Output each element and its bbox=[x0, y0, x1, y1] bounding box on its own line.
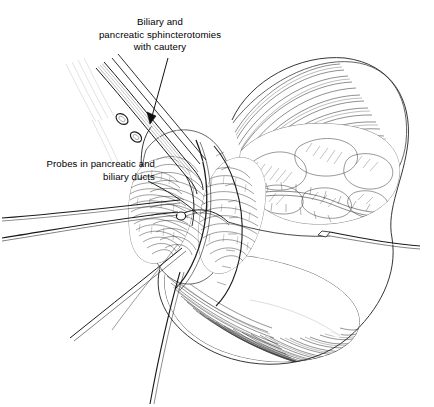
label-probes-line-2: biliary ducts bbox=[15, 171, 155, 184]
label-cautery-line-2: pancreatic sphincterotomies bbox=[85, 29, 235, 42]
label-cautery-line-3: with cautery bbox=[85, 41, 235, 54]
label-probes-line-1: Probes in pancreatic and bbox=[15, 158, 155, 171]
label-probes-in-pancreatic-and-biliary-ducts: Probes in pancreatic and biliary ducts bbox=[15, 158, 155, 183]
label-biliary-pancreatic-sphincterotomies: Biliary and pancreatic sphincterotomies … bbox=[85, 16, 235, 54]
illustration-page: Biliary and pancreatic sphincterotomies … bbox=[0, 0, 434, 407]
label-cautery-line-1: Biliary and bbox=[85, 16, 235, 29]
surgical-illustration bbox=[0, 0, 434, 407]
